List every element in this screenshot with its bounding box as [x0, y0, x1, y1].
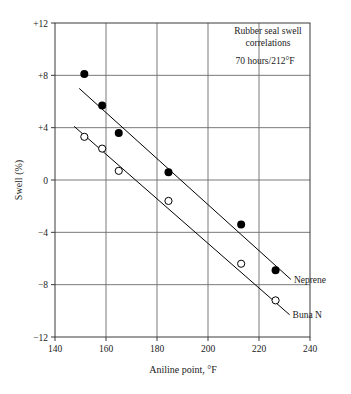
ytick-label-4: +4 [38, 123, 48, 133]
point-buna-n-0 [81, 133, 88, 140]
ytick-label-12: +12 [33, 19, 48, 29]
point-neprene-0 [80, 70, 88, 78]
chart-background [0, 0, 351, 394]
xtick-label-200: 200 [201, 344, 216, 354]
swell-correlation-chart: 140160180200220240 +12+8+40−4−8−12 Nepre… [0, 0, 351, 394]
point-buna-n-1 [99, 145, 106, 152]
ytick-label--4: −4 [38, 228, 48, 238]
point-buna-n-5 [272, 297, 279, 304]
point-neprene-1 [98, 101, 106, 109]
annotation-line-1: Rubber seal swell [234, 26, 302, 36]
annotation-line-2: correlations [246, 38, 291, 48]
xtick-label-220: 220 [252, 344, 267, 354]
xtick-label-180: 180 [150, 344, 165, 354]
x-axis-title: Aniline point, °F [149, 364, 217, 375]
chart-figure: 140160180200220240 +12+8+40−4−8−12 Nepre… [0, 0, 351, 394]
y-axis-title: Swell (%) [13, 160, 25, 200]
series-label-buna-n: Buna N [293, 310, 322, 320]
ytick-label-0: 0 [43, 176, 48, 186]
point-neprene-3 [164, 168, 172, 176]
ytick-label-8: +8 [38, 71, 48, 81]
xtick-label-160: 160 [99, 344, 114, 354]
annotation-line-3: 70 hours/212°F [236, 56, 295, 66]
xtick-label-140: 140 [48, 344, 63, 354]
point-buna-n-4 [238, 260, 245, 267]
point-buna-n-2 [115, 167, 122, 174]
series-label-neprene: Neprene [294, 275, 326, 285]
ytick-label--12: −12 [33, 333, 48, 343]
point-neprene-4 [237, 220, 245, 228]
point-neprene-5 [272, 266, 280, 274]
xtick-label-240: 240 [303, 344, 318, 354]
point-buna-n-3 [165, 197, 172, 204]
ytick-label--8: −8 [38, 280, 48, 290]
point-neprene-2 [115, 129, 123, 137]
